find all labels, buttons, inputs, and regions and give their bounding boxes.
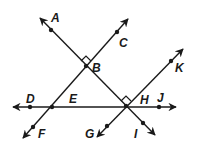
label-a: A — [50, 11, 60, 25]
right-angle-mark-h — [121, 96, 131, 101]
point-b — [84, 64, 88, 68]
right-angle-mark-b — [81, 56, 91, 61]
point-f — [31, 125, 35, 129]
label-g: G — [85, 127, 94, 141]
point-g — [105, 124, 109, 128]
point-k — [169, 59, 173, 63]
point-e — [50, 105, 54, 109]
label-c: C — [119, 36, 128, 50]
label-f: F — [38, 127, 46, 141]
label-h: H — [140, 93, 149, 107]
label-b: B — [92, 61, 101, 75]
point-j — [157, 105, 161, 109]
point-a — [49, 28, 53, 32]
label-e: E — [69, 92, 78, 106]
line-cf — [23, 19, 128, 138]
geometry-diagram: A B C D E F G H I J K — [0, 0, 199, 148]
point-i — [141, 121, 145, 125]
point-c — [115, 30, 119, 34]
label-k: K — [175, 61, 185, 75]
point-h — [124, 104, 128, 108]
line-ai — [40, 18, 155, 135]
label-j: J — [157, 91, 164, 105]
label-d: D — [26, 92, 35, 106]
label-i: I — [134, 127, 138, 141]
